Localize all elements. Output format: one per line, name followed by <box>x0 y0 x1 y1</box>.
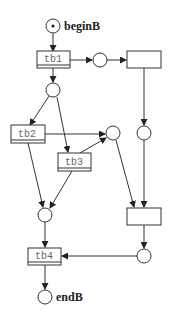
arc-p3-trb <box>116 140 134 207</box>
place-p1[interactable] <box>46 83 60 97</box>
label-tb3: tb3 <box>65 157 83 168</box>
arc-p1-tb3 <box>57 97 68 152</box>
place-endB[interactable] <box>38 290 52 304</box>
label-endB: endB <box>56 290 83 304</box>
place-p5[interactable] <box>38 208 52 222</box>
arc-tb3-p5 <box>50 171 72 208</box>
arc-tb2-p5 <box>28 143 43 207</box>
arc-p1-tb2 <box>30 96 49 125</box>
place-p3[interactable] <box>106 126 120 140</box>
label-tb1: tb1 <box>44 54 62 65</box>
transition-right-bottom[interactable] <box>127 208 161 225</box>
petri-net-diagram: beginB tb1 tb2 tb3 tb4 endB <box>0 0 172 321</box>
label-tb2: tb2 <box>18 129 36 140</box>
place-p2[interactable] <box>93 53 107 67</box>
label-beginB: beginB <box>64 19 100 33</box>
label-tb4: tb4 <box>35 251 53 262</box>
transition-right-top[interactable] <box>127 51 161 68</box>
token-icon <box>51 24 54 27</box>
place-p4[interactable] <box>137 126 151 140</box>
place-p6[interactable] <box>137 249 151 263</box>
arc-tb3-p3 <box>80 138 106 153</box>
